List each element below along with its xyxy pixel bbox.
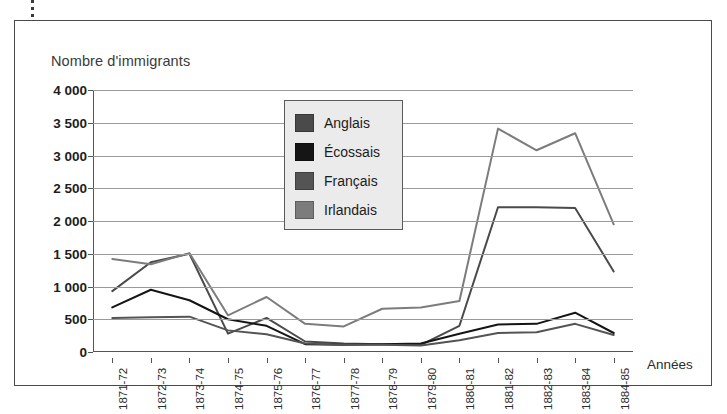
x-axis-tick-label: 1872-73 [156, 368, 168, 410]
x-axis-tick-label: 1878-79 [387, 368, 399, 410]
legend-item: Anglais [295, 108, 402, 137]
x-tick-mark [421, 358, 422, 363]
x-axis-tick-label: 1881-82 [503, 368, 515, 410]
y-tick-mark [88, 156, 93, 157]
legend-item: Irlandais [295, 195, 402, 224]
legend-item: Français [295, 166, 402, 195]
y-axis-tick-label: 2 000 [53, 214, 87, 229]
y-axis-title: Nombre d'immigrants [51, 53, 190, 69]
x-axis-tick-label: 1884-85 [619, 368, 631, 410]
x-tick-mark [267, 358, 268, 363]
x-tick-mark [575, 358, 576, 363]
y-tick-mark [88, 254, 93, 255]
y-axis-tick-label: 3 500 [53, 115, 87, 130]
x-tick-mark [344, 358, 345, 363]
y-tick-mark [88, 123, 93, 124]
legend-item-label: Anglais [324, 115, 370, 131]
x-tick-mark [305, 358, 306, 363]
legend-item-label: Irlandais [324, 202, 377, 218]
x-axis-title: Années [647, 357, 693, 372]
x-axis-tick-label: 1871-72 [117, 368, 129, 410]
x-tick-mark [112, 358, 113, 363]
legend-swatch-icon [295, 172, 314, 190]
x-tick-mark [537, 358, 538, 363]
x-tick-mark [382, 358, 383, 363]
legend-swatch-icon [295, 114, 314, 132]
x-axis-tick-label: 1873-74 [194, 368, 206, 410]
y-tick-mark [88, 221, 93, 222]
y-tick-mark [88, 188, 93, 189]
y-axis-tick-label: 2 500 [53, 181, 87, 196]
y-axis-tick-label: 1 000 [53, 279, 87, 294]
y-axis-tick-label: 1 500 [53, 246, 87, 261]
x-axis-tick-label: 1879-80 [426, 368, 438, 410]
figure-frame: Nombre d'immigrants 4 0003 5003 0002 500… [14, 20, 712, 386]
legend-item-label: Français [324, 173, 378, 189]
legend-swatch-icon [295, 143, 314, 161]
y-tick-mark [88, 319, 93, 320]
crop-marks [31, 0, 34, 22]
x-axis-tick-label: 1877-78 [349, 368, 361, 410]
x-axis-tick-label: 1880-81 [464, 368, 476, 410]
x-tick-mark [498, 358, 499, 363]
legend: AnglaisÉcossaisFrançaisIrlandais [284, 100, 403, 230]
x-axis-tick-label: 1883-84 [580, 368, 592, 410]
legend-swatch-icon [295, 201, 314, 219]
gridline [93, 319, 633, 320]
x-tick-mark [459, 358, 460, 363]
legend-item-label: Écossais [324, 144, 380, 160]
x-tick-mark [189, 358, 190, 363]
gridline [93, 287, 633, 288]
y-axis-tick-labels: 4 0003 5003 0002 5002 0001 5001 0005000 [35, 90, 87, 352]
y-tick-mark [88, 287, 93, 288]
gridline [93, 254, 633, 255]
x-tick-mark [151, 358, 152, 363]
legend-item: Écossais [295, 137, 402, 166]
x-axis-tick-labels: 1871-721872-731873-741874-751875-761876-… [93, 358, 653, 414]
x-axis-tick-label: 1875-76 [272, 368, 284, 410]
y-tick-mark [88, 90, 93, 91]
gridline [93, 90, 633, 91]
y-axis-tick-label: 3 000 [53, 148, 87, 163]
y-axis-tick-label: 4 000 [53, 83, 87, 98]
x-tick-mark [614, 358, 615, 363]
y-tick-mark [88, 352, 93, 353]
x-tick-mark [228, 358, 229, 363]
x-axis-tick-label: 1876-77 [310, 368, 322, 410]
y-axis-tick-label: 0 [79, 345, 87, 360]
x-axis-tick-label: 1874-75 [233, 368, 245, 410]
y-axis-tick-label: 500 [64, 312, 87, 327]
x-axis-tick-label: 1882-83 [542, 368, 554, 410]
